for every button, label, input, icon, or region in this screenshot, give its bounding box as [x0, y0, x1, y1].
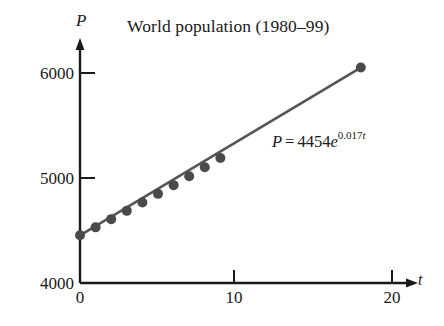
- y-axis-label: P: [76, 12, 86, 29]
- equation-equals: =: [282, 132, 297, 151]
- data-point-marker: [215, 153, 225, 163]
- x-tick-label-20: 20: [372, 289, 412, 306]
- y-tick-label-5000: 5000: [16, 170, 74, 187]
- data-point-marker: [184, 171, 194, 181]
- y-axis-arrowhead: [76, 38, 85, 50]
- equation-lhs: P: [272, 132, 282, 151]
- equation-base: e: [330, 132, 337, 151]
- data-point-marker: [137, 197, 147, 207]
- x-tick-label-0: 0: [60, 289, 100, 306]
- model-equation-annotation: P=4454e0.017t: [272, 131, 366, 150]
- data-point-marker: [153, 189, 163, 199]
- data-point-marker: [91, 222, 101, 232]
- x-axis-arrowhead: [406, 279, 418, 288]
- data-point-marker: [75, 230, 85, 240]
- chart-figure: World population (1980–99) P t 6000 5000…: [0, 0, 444, 326]
- chart-title: World population (1980–99): [127, 18, 329, 36]
- equation-coefficient: 4454: [297, 132, 330, 151]
- y-tick-label-6000: 6000: [16, 65, 74, 82]
- equation-exponent-value: 0.017: [338, 129, 363, 141]
- data-point-marker: [106, 214, 116, 224]
- equation-exponent-variable: t: [362, 129, 365, 141]
- data-point-marker: [200, 162, 210, 172]
- data-point-marker: [122, 206, 132, 216]
- data-point-marker: [356, 63, 366, 73]
- data-point-marker: [169, 180, 179, 190]
- x-tick-label-10: 10: [214, 289, 254, 306]
- equation-exponent: 0.017t: [338, 129, 366, 141]
- x-axis-label: t: [418, 272, 422, 288]
